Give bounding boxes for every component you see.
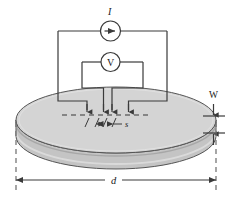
four-point-probe-figure: s I V W d <box>0 0 232 200</box>
thickness-label: W <box>209 90 218 100</box>
wafer-disc <box>16 87 216 169</box>
diameter-label: d <box>111 175 117 186</box>
diagram-canvas: s I V W d <box>0 0 232 200</box>
wafer-top-surface <box>16 87 216 153</box>
voltmeter-label: V <box>107 57 115 68</box>
current-label: I <box>107 6 112 17</box>
voltmeter: V <box>101 53 120 72</box>
current-source-meter <box>101 21 121 41</box>
